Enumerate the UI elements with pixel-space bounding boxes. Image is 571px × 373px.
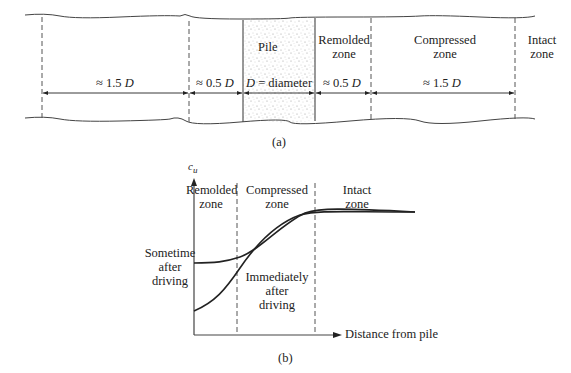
zone-label-compressed: Compressed zone: [400, 33, 490, 61]
curve-label-immediately: Immediately after driving: [244, 270, 310, 312]
dim-var: D: [246, 76, 255, 90]
zone-label-line: zone: [244, 197, 310, 211]
dim-right-inner: ≈ 0.5 D: [323, 76, 361, 91]
zone-label-line: zone: [337, 197, 377, 211]
zone-label-line: zone: [400, 47, 490, 61]
dim-prefix: ≈ 1.5: [96, 76, 125, 90]
dim-prefix: ≈ 0.5: [323, 76, 352, 90]
curve-label-line: Immediately: [244, 270, 310, 284]
pile-label: Pile: [258, 40, 277, 54]
pile-body: [243, 18, 315, 123]
curve-sometime-after-driving: [194, 209, 415, 263]
dim-pile-diameter: D = diameter: [246, 76, 312, 91]
dim-prefix: ≈ 0.5: [196, 76, 225, 90]
soil-top-boundary: [25, 14, 535, 19]
dim-var: D: [125, 76, 134, 90]
curve-label-line: Sometime: [140, 246, 200, 260]
zone-label-line: Compressed: [244, 183, 310, 197]
caption-a: (a): [272, 135, 286, 149]
y-axis-label: cu: [188, 160, 197, 175]
x-axis-label: Distance from pile: [345, 327, 438, 342]
chart-zone-remolded: Remolded zone: [186, 183, 236, 211]
chart-zone-intact: Intact zone: [337, 183, 377, 211]
curve-label-line: driving: [140, 274, 200, 288]
zone-label-line: Intact: [519, 33, 565, 47]
curve-label-line: after: [140, 260, 200, 274]
zone-label-line: zone: [519, 47, 565, 61]
zone-label-intact: Intact zone: [519, 33, 565, 61]
dim-suffix: = diameter: [255, 76, 312, 90]
zone-label-line: Compressed: [400, 33, 490, 47]
zone-label-remolded: Remolded zone: [318, 33, 370, 61]
curve-label-sometime: Sometime after driving: [140, 246, 200, 288]
y-axis-subscript: u: [193, 165, 198, 175]
zone-label-line: Remolded: [186, 183, 236, 197]
zone-label-line: zone: [186, 197, 236, 211]
dim-var: D: [352, 76, 361, 90]
zone-label-line: Remolded: [318, 33, 370, 47]
zone-label-line: zone: [318, 47, 370, 61]
caption-b: (b): [278, 351, 293, 365]
dim-left-outer: ≈ 1.5 D: [96, 76, 134, 91]
dim-prefix: ≈ 1.5: [423, 76, 452, 90]
chart-zone-compressed: Compressed zone: [244, 183, 310, 211]
dim-var: D: [225, 76, 234, 90]
curve-label-line: after: [244, 284, 310, 298]
dim-var: D: [452, 76, 461, 90]
dim-left-inner: ≈ 0.5 D: [196, 76, 234, 91]
dim-right-outer: ≈ 1.5 D: [423, 76, 461, 91]
zone-label-line: Intact: [337, 183, 377, 197]
curve-label-line: driving: [244, 298, 310, 312]
